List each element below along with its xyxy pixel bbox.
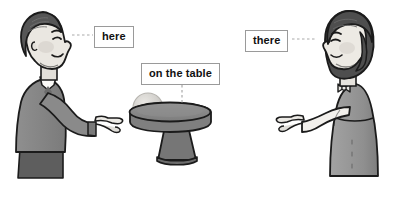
woman-pointing-hand <box>276 115 304 122</box>
illustration-scene: here on the table there <box>0 0 411 197</box>
man-pointing-hand <box>95 116 123 123</box>
table-surface-sheen <box>137 105 203 117</box>
label-there: there <box>245 30 288 52</box>
man-cuff <box>88 122 96 136</box>
label-here: here <box>94 26 134 48</box>
label-on-the-table: on the table <box>141 63 220 85</box>
table-group <box>130 93 212 165</box>
man-cheek <box>38 41 54 53</box>
man-hand-fingers <box>96 124 120 133</box>
woman-dress <box>330 84 378 176</box>
woman-hand-fingers <box>279 123 303 132</box>
illustration-artwork <box>0 0 411 197</box>
woman-figure <box>276 11 378 176</box>
woman-cheek <box>339 42 355 54</box>
